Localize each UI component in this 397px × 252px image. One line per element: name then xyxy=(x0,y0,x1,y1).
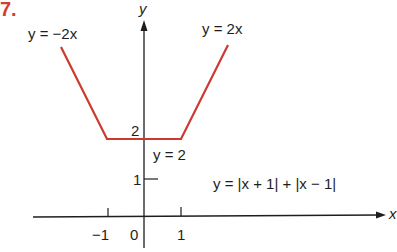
x-axis-label: x xyxy=(389,206,397,221)
annotation-right-branch: y = 2x xyxy=(202,21,242,36)
problem-number: 7. xyxy=(0,0,17,19)
x-axis xyxy=(33,215,380,217)
y-axis-label: y xyxy=(139,1,147,16)
y-tick-label-1: 1 xyxy=(133,172,141,187)
x-tick-label-1: 1 xyxy=(177,227,185,242)
x-tick-label-minus-1: −1 xyxy=(92,227,109,242)
annotation-function: y = |x + 1| + |x − 1| xyxy=(213,176,336,191)
annotation-left-branch: y = −2x xyxy=(28,26,77,41)
annotation-middle: y = 2 xyxy=(153,147,186,162)
x-tick-label-0: 0 xyxy=(130,227,138,242)
x-axis-arrow-icon xyxy=(376,212,386,219)
y-tick-label-2: 2 xyxy=(131,123,139,138)
y-axis-arrow-icon xyxy=(141,20,148,31)
